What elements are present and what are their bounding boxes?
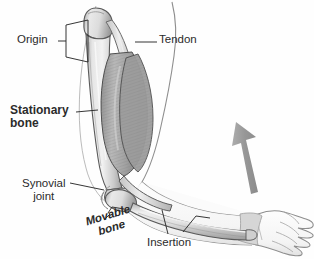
label-insertion: Insertion (147, 236, 191, 248)
label-stationary-bone-line2: bone (10, 117, 69, 130)
label-synovial-joint-line1: Synovial (22, 177, 65, 190)
leader-synovial-joint (70, 183, 104, 190)
label-tendon: Tendon (159, 33, 197, 45)
label-stationary-bone-line1: Stationary (10, 104, 69, 117)
label-stationary-bone: Stationary bone (10, 104, 69, 131)
label-synovial-joint: Synovial joint (22, 177, 65, 203)
anatomy-diagram-canvas: Origin Tendon Stationary bone Synovial j… (0, 0, 314, 259)
label-synovial-joint-line2: joint (22, 190, 65, 203)
label-origin: Origin (17, 33, 48, 45)
upward-motion-arrow (232, 122, 258, 194)
